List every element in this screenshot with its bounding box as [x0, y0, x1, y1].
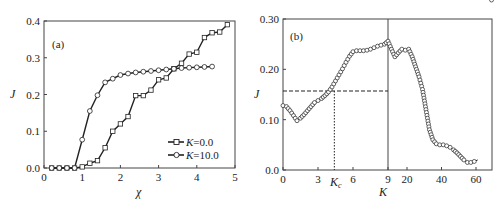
y-tick-label: 0.30	[260, 13, 280, 25]
square-marker-icon	[195, 50, 199, 54]
y-tick-label: 0.20	[260, 63, 280, 75]
square-marker-icon	[202, 35, 206, 39]
critical-k-label: Kc	[329, 175, 342, 190]
circle-marker-icon	[202, 65, 207, 70]
panel-label-a: (a)	[52, 38, 65, 51]
x-tick-label: 40	[436, 173, 448, 185]
circle-marker-icon	[103, 80, 108, 85]
y-tick-label: 0.10	[260, 114, 280, 126]
circle-marker-icon	[156, 68, 161, 73]
square-marker-icon	[133, 93, 137, 97]
x-tick-label: 5	[232, 171, 238, 183]
critical-point-guides	[283, 91, 388, 170]
legend-label-k0: K=0.0	[185, 136, 214, 148]
square-marker-icon	[95, 158, 99, 162]
y-axis-label-a: J	[10, 87, 16, 101]
y-tick-label: 0.0	[26, 162, 40, 174]
x-tick-label: 4	[194, 171, 200, 183]
circle-marker-icon	[95, 93, 100, 98]
x-tick-label: 2	[118, 171, 124, 183]
square-marker-icon	[225, 22, 229, 26]
circle-marker-icon	[187, 65, 192, 70]
circle-marker-icon	[110, 76, 115, 81]
square-marker-icon	[156, 78, 160, 82]
x-tick-label: 60	[471, 173, 483, 185]
circle-marker-icon	[472, 159, 476, 163]
square-marker-icon	[149, 88, 153, 92]
y-tick-label: 0.0	[265, 164, 279, 176]
circle-marker-icon	[80, 137, 85, 142]
circle-marker-icon	[171, 66, 176, 71]
circle-marker-icon	[149, 69, 154, 74]
series-b	[281, 0, 494, 164]
circle-marker-icon	[65, 166, 70, 171]
legend-a: K=0.0 K=10.0	[168, 136, 219, 161]
square-marker-icon	[118, 122, 122, 126]
y-axis-b: 0.00.100.200.30	[260, 13, 286, 176]
figure: 0.00.10.20.30.4 012345 (a) J χ K=0.0 K=1…	[0, 0, 503, 206]
square-marker-icon	[164, 76, 168, 80]
circle-marker-icon	[295, 119, 299, 123]
circle-marker-icon	[194, 65, 199, 70]
y-tick-label: 0.2	[26, 89, 40, 101]
circle-marker-icon	[179, 66, 184, 71]
circle-marker-icon	[118, 73, 123, 78]
x-axis-label-a: χ	[135, 185, 142, 199]
circle-marker-icon	[126, 71, 131, 76]
square-marker-icon	[126, 114, 130, 118]
square-marker-icon	[88, 161, 92, 165]
x-tick-label: 3	[156, 171, 162, 183]
square-marker-icon	[218, 30, 222, 34]
x-tick-label: 20	[402, 173, 414, 185]
square-marker-icon	[141, 93, 145, 97]
x-axis-label-b: K	[378, 185, 388, 199]
y-axis-label-b: J	[254, 87, 260, 101]
x-tick-label: 1	[79, 171, 85, 183]
square-marker-icon	[174, 140, 179, 145]
circle-marker-icon	[133, 70, 138, 75]
square-marker-icon	[187, 52, 191, 56]
y-tick-label: 0.1	[26, 125, 40, 137]
x-tick-label: 3	[315, 173, 321, 185]
x-tick-label: 0	[41, 171, 47, 183]
circle-marker-icon	[490, 0, 494, 2]
circle-marker-icon	[87, 109, 92, 114]
square-marker-icon	[80, 165, 84, 169]
square-marker-icon	[111, 129, 115, 133]
circle-marker-icon	[57, 166, 62, 171]
x-tick-label: 6	[350, 173, 356, 185]
circle-marker-icon	[164, 67, 169, 72]
y-tick-label: 0.4	[26, 15, 40, 27]
y-tick-label: 0.3	[26, 52, 40, 64]
circle-marker-icon	[174, 152, 179, 157]
square-marker-icon	[179, 61, 183, 65]
circle-marker-icon	[72, 166, 77, 171]
panel-label-b: (b)	[290, 30, 303, 43]
square-marker-icon	[103, 146, 107, 150]
circle-marker-icon	[49, 166, 54, 171]
x-tick-label: 0	[280, 173, 286, 185]
chart-a: 0.00.10.20.30.4 012345 (a) J χ K=0.0 K=1…	[10, 15, 238, 199]
square-marker-icon	[210, 31, 214, 35]
circle-marker-icon	[141, 69, 146, 74]
series-line	[283, 41, 478, 162]
legend-label-k10: K=10.0	[185, 149, 219, 161]
circle-marker-icon	[210, 64, 215, 69]
chart-b: 0.00.100.200.30 0369204060 (b) J K Kc	[254, 0, 494, 199]
x-tick-label: 9	[385, 173, 391, 185]
